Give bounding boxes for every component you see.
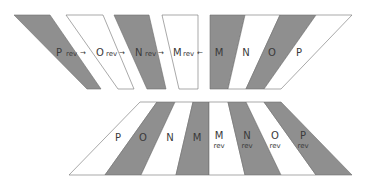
top-piece-m-rev: Mrev [162,15,198,89]
arrow-right-icon: → [158,49,164,57]
arrow-right-icon: → [80,49,86,57]
strip-letter: O [268,47,276,58]
strip-letter: O [139,132,147,143]
strip-suffix: rev [269,142,280,150]
strip-suffix: rev [297,142,308,150]
strip-letter: M [215,47,224,58]
arrow-right-icon: → [119,49,125,57]
arrow-left-icon: ← [197,49,203,57]
top-row-reversed-pieces: PrevOrevNrevMrev [14,15,198,89]
strip-suffix: rev [213,142,224,150]
strip-suffix: rev [145,50,156,58]
strip-letter: P [115,132,121,143]
strip-suffix: rev [183,50,194,58]
bottom-row-combined-strip: PONMMrevNrevOrevPrev [69,102,352,175]
strip-letter: P [300,130,306,141]
strip-letter: N [243,130,250,141]
strip-letter: M [173,47,182,58]
strip-letter: N [166,132,173,143]
strip-suffix: rev [66,50,77,58]
strip-letter: P [296,47,302,58]
strip-letter: M [215,130,224,141]
strip-letter: O [96,47,104,58]
strip-letter: N [242,47,249,58]
strip-letter: M [193,132,202,143]
top-row-mnop-block: MNOP [210,15,352,89]
strip-letter: O [271,130,279,141]
strip-suffix: rev [106,50,117,58]
strip-suffix: rev [241,142,252,150]
strip-letter: N [135,47,142,58]
strip-letter: P [56,47,62,58]
mnop-reversal-diagram: PrevOrevNrevMrev →→→← MNOP PONMMrevNrevO… [0,0,368,183]
